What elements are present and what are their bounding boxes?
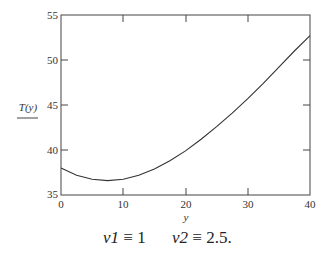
v1-name: v1 (103, 228, 119, 247)
y-tick-label: 40 (47, 144, 59, 156)
x-axis-ticks-top (123, 15, 248, 22)
v1-operator: ≡ (123, 228, 133, 247)
v2-operator: ≡ (192, 228, 202, 247)
v2-name: v2 (172, 228, 188, 247)
y-tick-label: 45 (47, 99, 59, 111)
x-tick-label: 0 (58, 198, 64, 210)
x-axis-ticks-bottom (123, 188, 248, 195)
x-tick-label: 10 (118, 198, 130, 210)
data-series-line (61, 36, 310, 181)
y-tick-label: 35 (47, 188, 59, 200)
x-tick-label: 30 (243, 198, 255, 210)
x-axis-title: y (183, 211, 189, 223)
y-tick-label: 50 (47, 54, 59, 66)
plot-frame (61, 15, 310, 195)
v1-value: 1 (137, 228, 146, 247)
parameter-definition-v2: v2 ≡ 2.5. (172, 228, 232, 248)
y-axis-ticks-left (61, 60, 68, 150)
y-tick-label: 55 (47, 9, 59, 21)
x-tick-label: 20 (181, 198, 193, 210)
v2-value: 2.5. (206, 228, 232, 247)
y-axis-title: T(y) (19, 101, 38, 114)
x-tick-label: 40 (305, 198, 317, 210)
line-chart: 35 40 45 50 55 0 10 20 30 40 T(y) y (0, 0, 327, 257)
parameter-definition-v1: v1 ≡ 1 (103, 228, 146, 248)
y-axis-ticks-right (303, 60, 310, 150)
